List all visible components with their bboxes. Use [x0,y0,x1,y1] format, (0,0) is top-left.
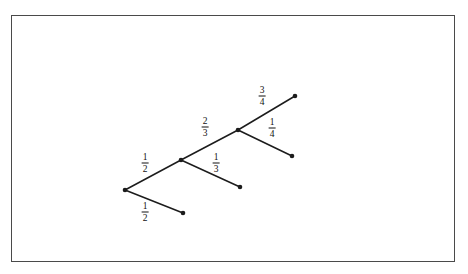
leaf-middle [238,185,243,190]
probability-label-l3: 23 [202,117,209,138]
leaf-top-right [293,94,298,99]
branch-node-3 [236,128,241,133]
fraction-denominator: 2 [142,164,149,174]
probability-label-l5: 34 [259,86,266,107]
fraction-numerator: 3 [259,86,266,97]
fraction-denominator: 4 [269,129,276,139]
fraction-denominator: 3 [213,164,220,174]
fraction-numerator: 1 [142,202,149,213]
edge-node2-to-leaf2 [181,160,240,187]
edge-node3-to-leaf3 [238,96,295,130]
fraction-numerator: 1 [269,118,276,129]
probability-label-l6: 14 [269,118,276,139]
figure-canvas: 121223133414 [0,0,468,274]
edge-root-to-node2 [125,160,181,190]
edge-root-to-leaf1 [125,190,183,213]
tree-edges [125,96,295,213]
fraction-numerator: 2 [202,117,209,128]
leaf-bottom-left [181,211,186,216]
fraction-numerator: 1 [213,153,220,164]
probability-label-l1: 12 [142,153,149,174]
tree-diagram [0,0,468,274]
fraction-denominator: 4 [259,97,266,107]
branch-node-2 [179,158,184,163]
fraction-denominator: 2 [142,213,149,223]
tree-nodes [123,94,298,216]
root-node [123,188,128,193]
edge-node2-to-node3 [181,130,238,160]
fraction-denominator: 3 [202,128,209,138]
leaf-lower-right [290,154,295,159]
probability-label-l4: 13 [213,153,220,174]
edge-node3-to-leaf4 [238,130,292,156]
fraction-numerator: 1 [142,153,149,164]
probability-label-l2: 12 [142,202,149,223]
